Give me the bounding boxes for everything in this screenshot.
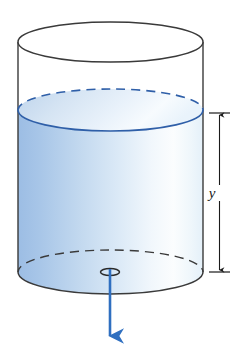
top-rim-ellipse [18,22,203,62]
height-dimension: y [207,113,230,272]
water-surface [18,89,203,131]
figure-canvas: y [0,0,237,363]
tank-drain-figure: y [0,0,237,363]
water-side-fill [18,110,203,294]
dimension-label-y: y [207,185,216,201]
cylinder-top-rim [18,22,203,62]
water-volume [18,110,203,294]
